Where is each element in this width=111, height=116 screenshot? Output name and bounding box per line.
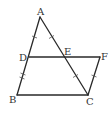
label-a: A: [36, 6, 45, 17]
geometry-diagram: A D E F B C: [0, 0, 111, 116]
label-c: C: [86, 96, 94, 107]
label-d: D: [19, 52, 27, 63]
label-b: B: [9, 94, 16, 105]
label-f: F: [101, 51, 108, 62]
label-e: E: [64, 46, 71, 57]
